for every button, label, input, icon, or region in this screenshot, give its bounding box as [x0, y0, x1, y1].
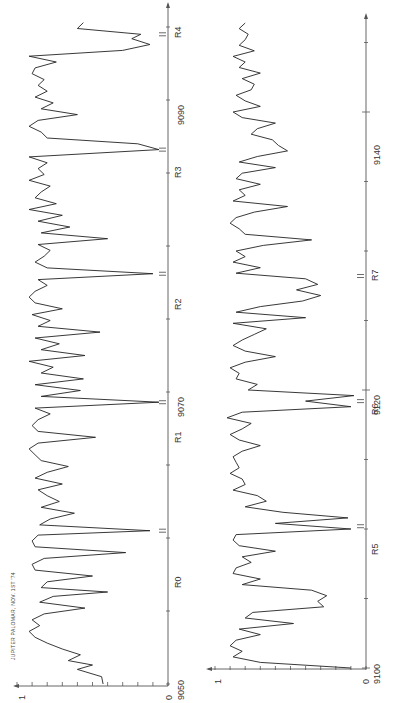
- upper-r-markers: [159, 33, 166, 532]
- lower-r-markers: [357, 275, 364, 528]
- label-R4: R4: [173, 26, 183, 38]
- label-R3: R3: [173, 166, 183, 178]
- label-R5: R5: [370, 543, 380, 555]
- lower-axis-arrow-icon: [364, 13, 368, 19]
- lower-tick-label-9100: 9100: [372, 664, 382, 684]
- upper-y-ticks: [17, 682, 168, 686]
- label-R2: R2: [173, 298, 183, 310]
- lower-panel: 9100 9120 9140 0 1 R5 R6 R7: [206, 0, 382, 684]
- upper-panel: 9050 9070 9090 0 1 JUPITER PALOMAR, NOV.…: [10, 0, 186, 700]
- upper-tick-label-9070: 9070: [176, 397, 186, 417]
- upper-tick-label-9050: 9050: [176, 680, 186, 700]
- upper-spectrum-line: [29, 23, 159, 684]
- label-R1: R1: [173, 431, 183, 443]
- upper-yaxis-arrow-icon: [13, 684, 19, 688]
- label-R6: R6: [370, 403, 380, 415]
- label-R7: R7: [370, 269, 380, 281]
- upper-tick-label-9090: 9090: [176, 105, 186, 125]
- lower-spectrum-line: [227, 23, 354, 668]
- label-R0: R0: [173, 576, 183, 588]
- figure-caption: JUPITER PALOMAR, NOV. 1ST '74: [10, 572, 16, 660]
- spectrum-figure: 9050 9070 9090 0 1 JUPITER PALOMAR, NOV.…: [0, 0, 395, 703]
- lower-tick-label-9140: 9140: [372, 145, 382, 165]
- upper-y-label-1: 1: [17, 695, 27, 700]
- lower-y-label-0: 0: [361, 679, 371, 684]
- lower-yaxis-arrow-icon: [206, 667, 212, 671]
- upper-axis-arrow-icon: [166, 2, 170, 8]
- upper-y-label-0: 0: [164, 695, 174, 700]
- lower-y-label-1: 1: [213, 679, 223, 684]
